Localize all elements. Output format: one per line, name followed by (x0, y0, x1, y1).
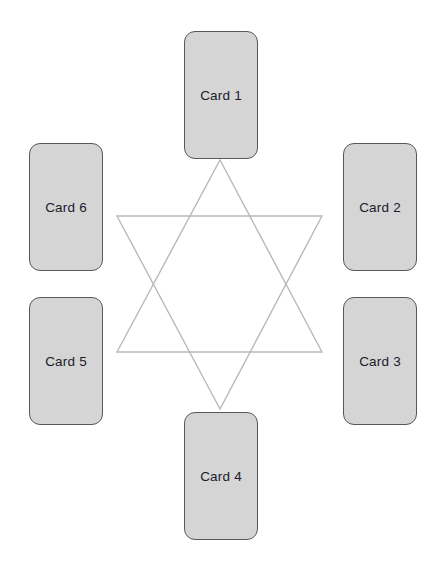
card-6[interactable]: Card 6 (29, 143, 103, 271)
star-upward-triangle (117, 160, 322, 352)
card-3-label: Card 3 (359, 354, 401, 369)
card-2-label: Card 2 (359, 200, 401, 215)
card-4[interactable]: Card 4 (184, 412, 258, 540)
card-3[interactable]: Card 3 (343, 297, 417, 425)
card-1-label: Card 1 (200, 88, 242, 103)
card-5-label: Card 5 (45, 354, 87, 369)
card-5[interactable]: Card 5 (29, 297, 103, 425)
diagram-canvas: Card 1 Card 2 Card 3 Card 4 Card 5 Card … (0, 0, 436, 570)
card-4-label: Card 4 (200, 469, 242, 484)
card-1[interactable]: Card 1 (184, 31, 258, 159)
card-2[interactable]: Card 2 (343, 143, 417, 271)
star-downward-triangle (117, 216, 322, 409)
card-6-label: Card 6 (45, 200, 87, 215)
